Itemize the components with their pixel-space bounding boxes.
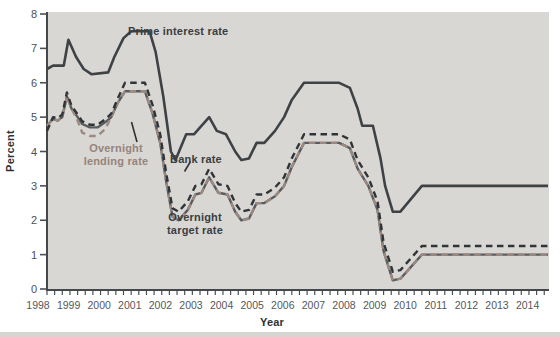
y-tick-label: 0 (31, 283, 37, 295)
label-prime-interest-rate: Prime interest rate (128, 25, 258, 38)
y-axis-title: Percent (4, 127, 16, 175)
x-tick-label: 2003 (179, 299, 203, 311)
x-tick-label: 2014 (516, 299, 540, 311)
chart-canvas: 0123456781998199920002001200220032004200… (0, 0, 560, 337)
x-axis-title: Year (247, 316, 297, 328)
label-overnight-lending-rate: Overnight lending rate (72, 142, 160, 167)
x-tick-label: 2004 (210, 299, 234, 311)
y-tick-label: 1 (31, 249, 37, 261)
y-tick-label: 3 (31, 180, 37, 192)
label-overnight-target-rate: Overnight target rate (162, 211, 228, 236)
x-tick-label: 2001 (118, 299, 142, 311)
page-edge-strip (0, 332, 560, 337)
x-tick-label: 2006 (271, 299, 295, 311)
x-tick-label: 2000 (88, 299, 112, 311)
y-tick-label: 5 (31, 111, 37, 123)
figure-interest-rates: 0123456781998199920002001200220032004200… (0, 0, 560, 337)
y-tick-label: 8 (31, 8, 37, 20)
x-tick-label: 2008 (332, 299, 356, 311)
x-tick-label: 2007 (302, 299, 326, 311)
x-tick-label: 2012 (455, 299, 479, 311)
y-tick-label: 6 (31, 77, 37, 89)
x-tick-label: 2011 (425, 299, 448, 311)
x-tick-label: 2002 (149, 299, 173, 311)
y-tick-label: 7 (31, 42, 37, 54)
y-tick-label: 2 (31, 214, 37, 226)
x-tick-label: 2010 (394, 299, 418, 311)
x-tick-label: 1999 (57, 299, 81, 311)
label-bank-rate: Bank rate (170, 153, 240, 166)
x-tick-label: 2013 (485, 299, 509, 311)
x-tick-label: 1998 (26, 299, 50, 311)
x-tick-label: 2009 (363, 299, 387, 311)
x-tick-label: 2005 (241, 299, 265, 311)
y-tick-label: 4 (31, 146, 37, 158)
